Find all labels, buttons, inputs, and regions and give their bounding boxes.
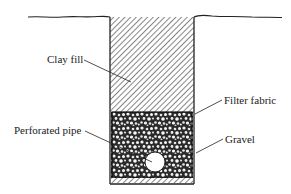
ground-surface-line	[28, 16, 110, 17]
bottom-hatch-band	[111, 178, 193, 183]
perforated-pipe	[145, 152, 165, 172]
label-clay-fill: Clay fill	[47, 53, 83, 65]
label-perforated-pipe: Perforated pipe	[14, 124, 82, 136]
clay-fill-region	[110, 17, 194, 112]
leader-filter-fabric	[195, 100, 222, 114]
label-gravel: Gravel	[225, 133, 255, 145]
label-filter-fabric: Filter fabric	[224, 94, 276, 106]
ground-surface-line-right	[194, 15, 282, 17]
leader-gravel	[196, 139, 223, 153]
